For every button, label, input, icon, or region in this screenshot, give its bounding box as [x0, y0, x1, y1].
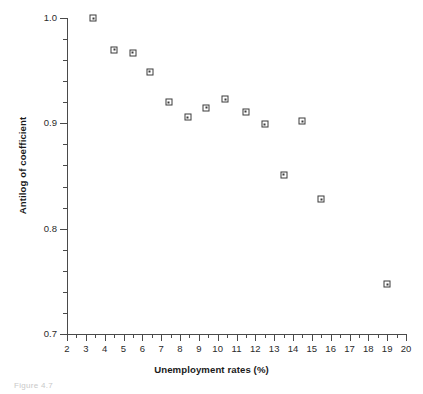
x-tick-label: 10 — [209, 344, 227, 354]
x-tick-minor — [359, 334, 360, 338]
x-tick-label: 6 — [133, 344, 151, 354]
x-tick-minor — [133, 334, 134, 338]
x-tick-minor — [171, 334, 172, 338]
x-tick-major — [237, 334, 238, 341]
data-point-marker — [165, 99, 172, 106]
y-tick-label: 0.9 — [27, 118, 57, 128]
x-tick-label: 17 — [341, 344, 359, 354]
data-point-marker — [146, 68, 153, 75]
x-tick-major — [105, 334, 106, 341]
x-tick-minor — [208, 334, 209, 338]
y-tick-label: 0.8 — [27, 224, 57, 234]
x-tick-major — [255, 334, 256, 341]
x-tick-minor — [76, 334, 77, 338]
x-tick-label: 19 — [378, 344, 396, 354]
x-tick-major — [350, 334, 351, 341]
data-point-marker — [203, 104, 210, 111]
x-axis-title: Unemployment rates (%) — [0, 364, 423, 375]
x-tick-major — [293, 334, 294, 341]
data-point-marker — [280, 171, 287, 178]
x-tick-minor — [321, 334, 322, 338]
x-tick-minor — [397, 334, 398, 338]
data-point-marker — [90, 15, 97, 22]
data-point-marker — [129, 49, 136, 56]
data-point-marker — [222, 96, 229, 103]
x-tick-label: 8 — [171, 344, 189, 354]
data-point-marker — [242, 108, 249, 115]
x-tick-minor — [265, 334, 266, 338]
y-tick-label: 0.7 — [27, 329, 57, 339]
data-point-marker — [318, 196, 325, 203]
data-point-marker — [261, 121, 268, 128]
x-tick-major — [67, 334, 68, 341]
x-tick-label: 15 — [303, 344, 321, 354]
x-tick-label: 14 — [284, 344, 302, 354]
scatter-chart-figure: Antilog of coefficient 0.70.80.91.0 2345… — [0, 0, 423, 394]
x-tick-major — [274, 334, 275, 341]
y-tick-major — [60, 18, 67, 19]
x-tick-minor — [302, 334, 303, 338]
x-tick-label: 9 — [190, 344, 208, 354]
x-tick-label: 16 — [322, 344, 340, 354]
x-tick-label: 5 — [115, 344, 133, 354]
x-tick-major — [387, 334, 388, 341]
x-tick-label: 18 — [359, 344, 377, 354]
x-tick-minor — [152, 334, 153, 338]
x-tick-minor — [284, 334, 285, 338]
data-point-marker — [111, 46, 118, 53]
x-tick-label: 7 — [152, 344, 170, 354]
x-tick-minor — [340, 334, 341, 338]
x-tick-major — [312, 334, 313, 341]
x-tick-major — [368, 334, 369, 341]
x-tick-minor — [189, 334, 190, 338]
y-axis-title: Antilog of coefficient — [17, 86, 28, 246]
y-tick-major — [60, 229, 67, 230]
x-tick-major — [142, 334, 143, 341]
x-tick-major — [199, 334, 200, 341]
x-tick-label: 11 — [228, 344, 246, 354]
figure-caption: Figure 4.7 — [14, 381, 53, 390]
x-tick-minor — [95, 334, 96, 338]
y-tick-label: 1.0 — [27, 13, 57, 23]
x-tick-major — [86, 334, 87, 341]
x-tick-label: 3 — [77, 344, 95, 354]
x-tick-major — [218, 334, 219, 341]
data-point-marker — [384, 281, 391, 288]
x-tick-major — [406, 334, 407, 341]
x-tick-minor — [246, 334, 247, 338]
x-tick-minor — [114, 334, 115, 338]
x-tick-label: 4 — [96, 344, 114, 354]
x-tick-label: 2 — [58, 344, 76, 354]
y-tick-major — [60, 123, 67, 124]
x-tick-label: 13 — [265, 344, 283, 354]
x-tick-major — [161, 334, 162, 341]
x-tick-label: 20 — [397, 344, 415, 354]
data-point-marker — [299, 118, 306, 125]
x-tick-minor — [227, 334, 228, 338]
plot-area — [67, 18, 406, 334]
x-tick-minor — [378, 334, 379, 338]
x-tick-label: 12 — [246, 344, 264, 354]
y-tick-major — [60, 334, 67, 335]
x-tick-major — [331, 334, 332, 341]
data-point-marker — [184, 114, 191, 121]
x-tick-major — [124, 334, 125, 341]
x-tick-major — [180, 334, 181, 341]
